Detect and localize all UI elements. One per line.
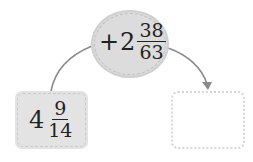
start-fraction: 9 14 [46,98,74,141]
operation-sign: + [99,30,119,54]
right-arrow-line [168,48,207,84]
arrowhead-icon [202,82,212,90]
start-denominator: 14 [46,120,74,141]
start-value: 4 9 14 [29,98,74,141]
operation-numerator: 38 [137,20,165,42]
operation-fraction: 38 63 [137,20,165,63]
operation-whole: 2 [120,30,135,54]
operation-denominator: 63 [137,42,165,63]
result-answer-box[interactable] [171,91,245,149]
start-whole: 4 [29,108,44,132]
left-connector-line [51,46,92,91]
operation-expression: + 2 38 63 [99,20,166,63]
start-numerator: 9 [52,98,68,120]
